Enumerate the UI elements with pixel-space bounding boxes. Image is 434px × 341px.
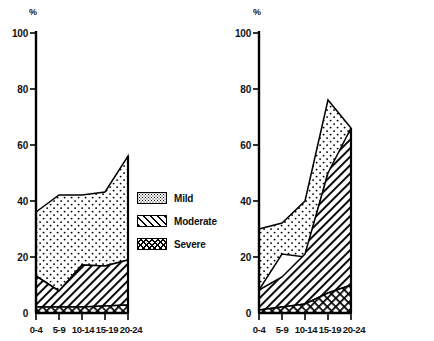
y-tick-label-80-right: 80 [225,84,251,95]
legend-swatch-severe-icon [137,238,167,250]
chart-panel-right: % 100 80 60 40 20 0 [217,0,434,341]
y-tick-label-100-right: 100 [225,28,251,39]
x-tick-label-0-4-left: 0-4 [30,324,43,335]
legend-item-mild: Mild [137,188,217,208]
x-tick-label-10-14-right: 10-14 [295,324,317,335]
y-axis-unit-label-right: % [253,7,261,17]
legend-swatch-moderate-icon [137,215,167,227]
y-tick-label-40-left: 40 [2,196,28,207]
y-tick-label-20-left: 20 [2,252,28,263]
y-tick-label-20-right: 20 [225,252,251,263]
y-axis-unit-label-left: % [29,7,37,17]
chart-panel-left: % 100 80 60 40 20 0 [0,0,217,341]
x-tick-label-20-24-right: 20-24 [343,324,365,335]
y-tick-label-0-left: 0 [2,308,28,319]
plot-area-left [0,0,217,341]
legend-item-severe: Severe [137,234,217,254]
chart-legend: Mild Moderate Severe [137,188,217,257]
plot-area-right [217,0,434,341]
x-tick-label-10-14-left: 10-14 [72,324,94,335]
legend-item-moderate: Moderate [137,211,217,231]
y-tick-label-40-right: 40 [225,196,251,207]
x-tick-label-5-9-right: 5-9 [276,324,289,335]
x-tick-label-15-19-right: 15-19 [319,324,341,335]
y-tick-label-60-right: 60 [225,140,251,151]
x-tick-label-15-19-left: 15-19 [96,324,118,335]
legend-swatch-mild-icon [137,192,167,204]
y-tick-label-60-left: 60 [2,140,28,151]
legend-label-mild: Mild [174,193,193,204]
y-tick-label-100-left: 100 [2,28,28,39]
stacked-area-chart-figure: % 100 80 60 40 20 0 [0,0,434,341]
legend-label-severe: Severe [174,239,206,250]
x-tick-label-20-24-left: 20-24 [120,324,142,335]
y-tick-label-80-left: 80 [2,84,28,95]
x-tick-label-0-4-right: 0-4 [253,324,266,335]
legend-label-moderate: Moderate [174,216,217,227]
x-tick-label-5-9-left: 5-9 [53,324,66,335]
y-tick-label-0-right: 0 [225,308,251,319]
